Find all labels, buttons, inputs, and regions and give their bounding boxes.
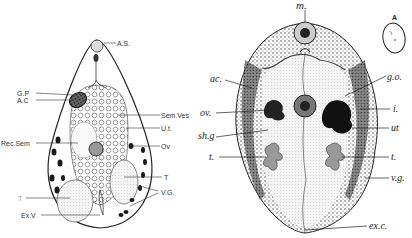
inset-label: A: [392, 14, 397, 21]
left-fluke-body: [26, 40, 162, 228]
label-excretory-vesicle: Ex.V: [21, 212, 36, 219]
label-vitelline-glands: V.G.: [161, 189, 174, 196]
label-shell-gland: sh.g: [198, 131, 214, 141]
label-seminal-vesicle: Sem.Ves: [161, 112, 189, 119]
label-testis-left: T: [18, 195, 22, 202]
label-anterior-sucker: A.S.: [117, 40, 130, 47]
label-uterus: U.t.: [161, 125, 172, 132]
testis-right: [110, 160, 138, 204]
label-acetabulum: A.C: [17, 97, 29, 104]
label-receptaculum-seminis: Rec.Sem: [1, 140, 30, 147]
label-excretory-canal: ex.c.: [369, 221, 387, 231]
diagram-drawings: [0, 0, 412, 238]
anterior-sucker: [91, 40, 103, 52]
label-testis-right: t.: [391, 152, 396, 162]
label-ovary: ov.: [200, 108, 211, 118]
label-uterus: ut: [391, 123, 399, 133]
testis-left: [57, 180, 93, 222]
inset-egg: [381, 21, 408, 54]
label-intestine: i.: [393, 104, 398, 114]
label-mouth: m.: [296, 0, 307, 11]
label-genital-pore: G.P: [17, 90, 29, 97]
label-vitelline-glands: v.g.: [391, 173, 405, 183]
label-testis-right: T: [164, 174, 168, 181]
label-acetabulum: ac.: [210, 74, 222, 84]
label-testis-left: t.: [209, 152, 214, 162]
label-ovary: Ov: [161, 143, 170, 150]
label-genital-opening: g.o.: [387, 72, 402, 82]
right-fluke-body: [216, 10, 390, 233]
